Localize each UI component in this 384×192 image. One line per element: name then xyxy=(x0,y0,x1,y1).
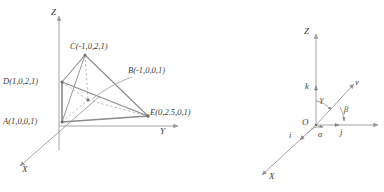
angle-label-gamma: γ xyxy=(320,95,323,104)
angle-arc-gamma xyxy=(316,101,331,110)
direction-cosines-svg xyxy=(192,0,384,192)
vector-i-tick xyxy=(300,136,304,140)
edge-A-E xyxy=(62,116,148,122)
vertex-label-E: E(0,2.5,0,1) xyxy=(150,108,191,117)
vector-label-i: i xyxy=(289,131,291,140)
origin-label: O xyxy=(302,118,309,127)
vector-label-v: v xyxy=(355,78,359,87)
vertex-label-B: B(-1,0,0,1) xyxy=(128,66,165,75)
vertex-label-D: D(1,0,2,1) xyxy=(3,77,38,86)
edge-D-C xyxy=(62,55,85,82)
axis-label-y: Y xyxy=(160,127,165,136)
vertex-dot-D xyxy=(61,81,64,84)
polyhedron-coordinate-diagram: Z Y X C(-1,0,2,1) B(-1,0,0,1) D(1,0,2,1)… xyxy=(0,0,192,192)
edge-D-E xyxy=(62,82,148,116)
vector-v-line xyxy=(316,84,354,125)
origin-dot xyxy=(315,124,317,126)
vertex-label-A: A(1,0,0,1) xyxy=(3,117,37,126)
figure-page: Z Y X C(-1,0,2,1) B(-1,0,0,1) D(1,0,2,1)… xyxy=(0,0,384,192)
axis-label-x: X xyxy=(269,172,275,181)
axis-label-z: Z xyxy=(304,27,309,36)
edge-C-B-hidden xyxy=(85,55,88,100)
vertex-dot-A xyxy=(61,121,64,124)
axis-label-x: X xyxy=(22,165,28,174)
vertex-dot-B xyxy=(87,99,90,102)
angle-label-alpha: α xyxy=(318,130,322,139)
axis-x-line xyxy=(20,96,100,166)
angle-label-beta: β xyxy=(344,105,348,114)
vertex-label-C: C(-1,0,2,1) xyxy=(70,42,108,51)
vector-label-j: j xyxy=(340,128,342,137)
vertex-dot-C xyxy=(84,54,87,57)
direction-cosines-diagram: Z X O k i j v α β γ xyxy=(192,0,384,192)
vector-label-k: k xyxy=(305,82,309,91)
polyhedron-svg xyxy=(0,0,192,192)
axis-label-z: Z xyxy=(51,8,56,17)
